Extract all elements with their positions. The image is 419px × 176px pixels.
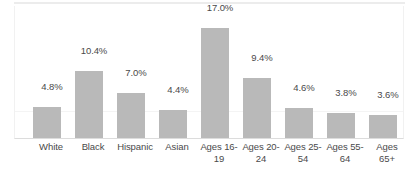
axis-tick-line-1: Asian	[154, 141, 200, 153]
axis-tick-label-white: White	[28, 141, 74, 153]
axis-tick-line-1: Ages 25-	[280, 141, 326, 153]
bar[interactable]	[33, 107, 61, 138]
axis-tick-line-2: 54	[280, 153, 326, 165]
bar[interactable]	[327, 113, 355, 138]
bar[interactable]	[285, 108, 313, 138]
bar[interactable]	[369, 115, 397, 138]
category-axis: White Black Hispanic Asian Ages 16- 19 A…	[14, 141, 404, 175]
axis-tick-line-2: 65+	[364, 153, 410, 165]
axis-tick-label-black: Black	[70, 141, 116, 153]
axis-tick-line-2: 24	[238, 153, 284, 165]
axis-tick-line-1: White	[28, 141, 74, 153]
axis-tick-line-1: Ages	[364, 141, 410, 153]
bar-data-label: 7.0%	[115, 67, 157, 78]
bar-data-label: 4.8%	[31, 81, 73, 92]
axis-tick-line-1: Hispanic	[112, 141, 158, 153]
bar-data-label: 17.0%	[199, 2, 241, 13]
axis-tick-label-asian: Asian	[154, 141, 200, 153]
bar-data-label: 10.4%	[73, 45, 115, 56]
axis-tick-label-ages-55-64: Ages 55- 64	[322, 141, 368, 164]
bar-data-label: 9.4%	[241, 52, 283, 63]
bar-data-label: 4.4%	[157, 84, 199, 95]
bar-chart-figure: 4.8% 10.4% 7.0% 4.4% 17.0% 9.4%	[0, 0, 419, 176]
plot-area: 4.8% 10.4% 7.0% 4.4% 17.0% 9.4%	[14, 6, 404, 139]
bar[interactable]	[243, 78, 271, 138]
bar[interactable]	[117, 93, 145, 138]
axis-tick-label-ages-25-54: Ages 25- 54	[280, 141, 326, 164]
bar-data-label: 3.6%	[367, 89, 409, 100]
axis-tick-line-1: Ages 55-	[322, 141, 368, 153]
axis-tick-label-hispanic: Hispanic	[112, 141, 158, 153]
bar[interactable]	[201, 28, 229, 138]
axis-tick-line-2: 64	[322, 153, 368, 165]
bar-data-label: 4.6%	[283, 82, 325, 93]
axis-tick-label-ages-20-24: Ages 20- 24	[238, 141, 284, 164]
axis-tick-line-2: 19	[196, 153, 242, 165]
bar-data-label: 3.8%	[325, 87, 367, 98]
axis-tick-line-1: Ages 16-	[196, 141, 242, 153]
axis-tick-label-ages-65-plus: Ages 65+	[364, 141, 410, 164]
bar-series: 4.8% 10.4% 7.0% 4.4% 17.0% 9.4%	[15, 6, 403, 138]
axis-tick-label-ages-16-19: Ages 16- 19	[196, 141, 242, 164]
axis-tick-line-1: Ages 20-	[238, 141, 284, 153]
bar[interactable]	[75, 71, 103, 138]
axis-tick-line-1: Black	[70, 141, 116, 153]
bar[interactable]	[159, 110, 187, 138]
